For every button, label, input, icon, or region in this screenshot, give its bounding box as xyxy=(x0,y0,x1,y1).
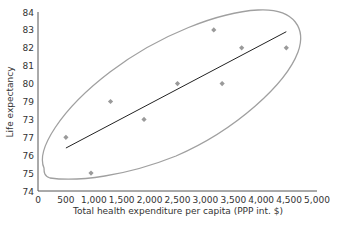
data-point-diamond-icon xyxy=(284,45,289,50)
x-tick-label: 3,000 xyxy=(193,195,219,205)
axis-labels: Total health expenditure per capita (PPP… xyxy=(5,66,283,216)
y-tick-label: 83 xyxy=(23,25,34,35)
x-axis-title: Total health expenditure per capita (PPP… xyxy=(72,206,283,216)
scatter-chart: 747576777379808182838405001,0001,5002,00… xyxy=(0,0,337,226)
y-tick-label: 75 xyxy=(23,169,34,179)
y-tick-label: 82 xyxy=(23,43,34,53)
x-tick-label: 1,000 xyxy=(81,195,107,205)
chart-canvas: 747576777379808182838405001,0001,5002,00… xyxy=(0,0,337,226)
x-tick-label: 5,000 xyxy=(304,195,330,205)
y-tick-label: 81 xyxy=(23,61,34,71)
data-point-diamond-icon xyxy=(88,171,93,176)
data-point-diamond-icon xyxy=(211,27,216,32)
x-tick-label: 1,500 xyxy=(109,195,135,205)
trendline-line xyxy=(66,32,286,148)
y-tick-label: 79 xyxy=(23,97,35,107)
x-tick-label: 0 xyxy=(35,195,41,205)
x-tick-label: 3,500 xyxy=(220,195,246,205)
y-tick-label: 77 xyxy=(23,133,34,143)
x-tick-label: 2,000 xyxy=(137,195,163,205)
x-tick-label: 4,000 xyxy=(248,195,274,205)
y-tick-label: 84 xyxy=(23,8,35,18)
y-axis-title: Life expectancy xyxy=(5,66,15,138)
data-point-diamond-icon xyxy=(239,45,244,50)
axes: 747576777379808182838405001,0001,5002,00… xyxy=(23,8,331,206)
data-point-diamond-icon xyxy=(220,81,225,86)
x-tick-label: 4,500 xyxy=(276,195,302,205)
enclosing-outline xyxy=(42,10,300,179)
data-points xyxy=(63,27,289,175)
data-point-diamond-icon xyxy=(141,117,146,122)
x-tick-label: 2,500 xyxy=(165,195,191,205)
trendline xyxy=(66,32,286,148)
enclosing-ellipse xyxy=(42,10,300,179)
data-point-diamond-icon xyxy=(175,81,180,86)
x-tick-label: 500 xyxy=(57,195,74,205)
y-tick-label: 74 xyxy=(23,187,35,197)
y-tick-label: 80 xyxy=(23,79,35,89)
y-tick-label: 73 xyxy=(23,115,34,125)
data-point-diamond-icon xyxy=(108,99,113,104)
y-tick-label: 76 xyxy=(23,151,35,161)
data-point-diamond-icon xyxy=(63,135,68,140)
